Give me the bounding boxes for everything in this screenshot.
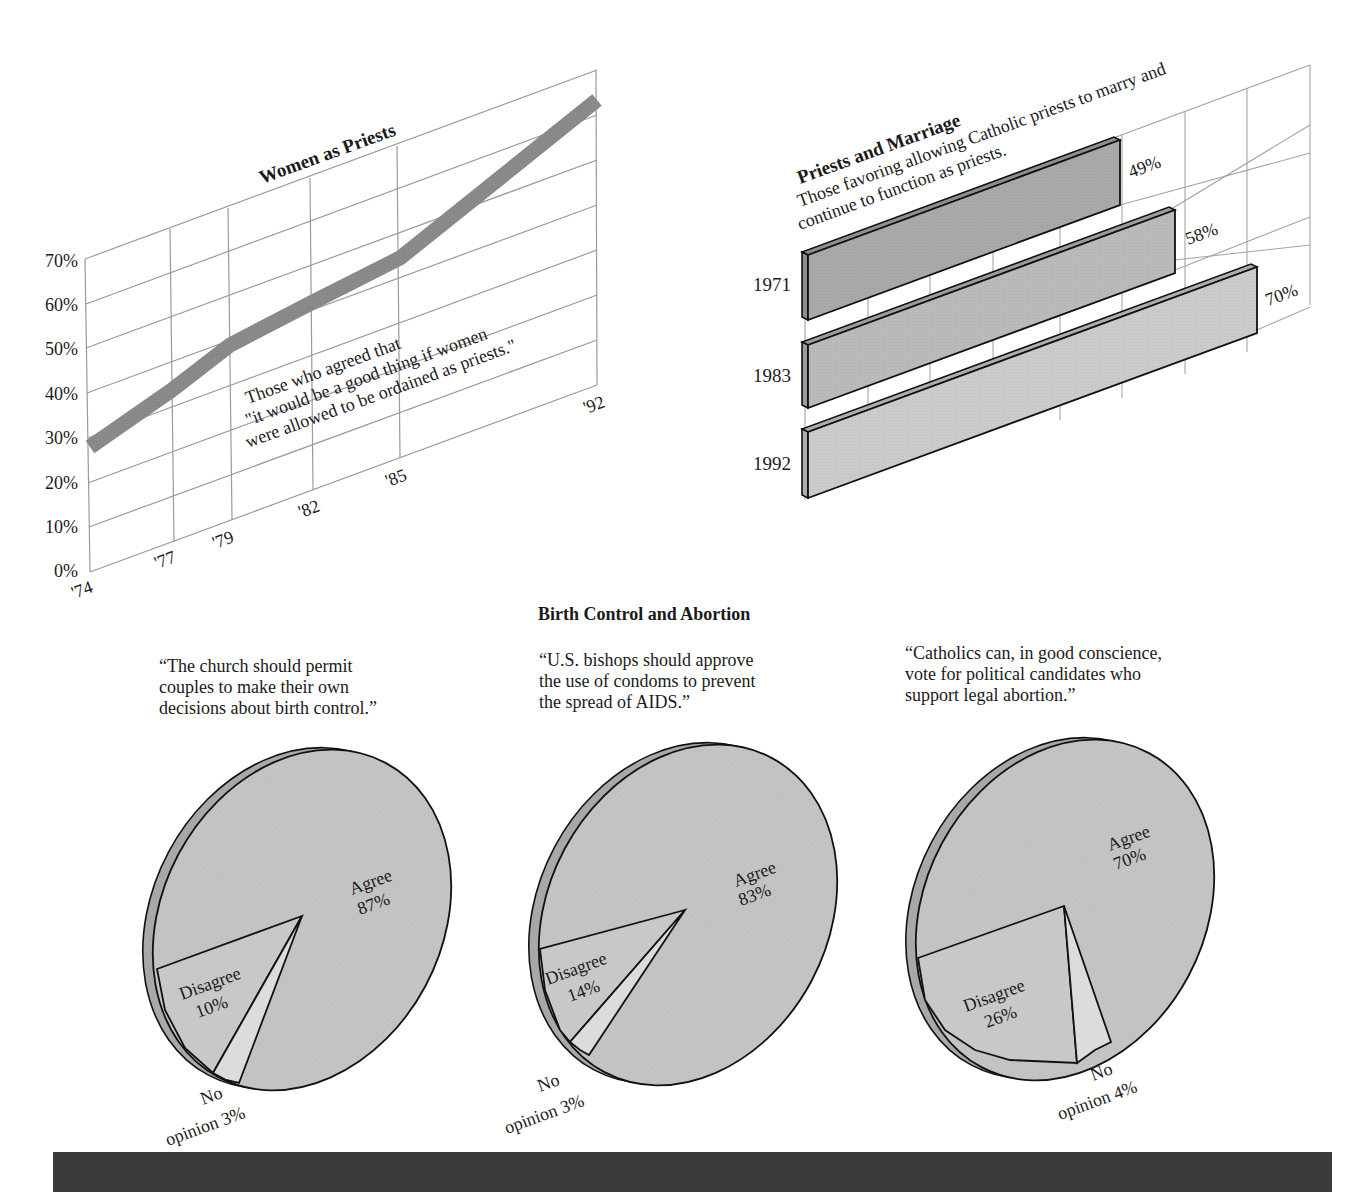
x-tick: '79: [210, 527, 237, 553]
x-tick: '92: [581, 392, 608, 418]
line-chart-title: Women as Priests: [256, 119, 398, 188]
pie-abortion: Disagree 26% Agree 70% No opinion 4%: [848, 685, 1272, 1133]
bar-chart-categories: 1971 1983 1992: [753, 274, 791, 474]
y-tick: 70%: [45, 251, 78, 271]
x-tick: '77: [152, 547, 179, 573]
line-chart-y-axis: 0% 10% 20% 30% 40% 50% 60% 70%: [45, 251, 78, 581]
line-chart-x-axis: '74 '77 '79 '82 '85 '92: [69, 392, 608, 603]
pie-caption-2: “U.S. bishops should approve the use of …: [539, 650, 755, 713]
value-label: 58%: [1183, 219, 1221, 249]
y-tick: 20%: [45, 473, 78, 493]
no-opinion-pct: opinion 3%: [502, 1090, 587, 1137]
pie-caption-1: “The church should permit couples to mak…: [159, 656, 377, 719]
no-opinion-label: No: [198, 1082, 226, 1108]
line-chart-annotation: Those who agreed that "it would be a goo…: [240, 237, 574, 452]
pies-section-title: Birth Control and Abortion: [538, 604, 750, 625]
women-as-priests-chart: 0% 10% 20% 30% 40% 50% 60% 70% '74 '77 '…: [45, 70, 607, 603]
caption-line: “U.S. bishops should approve: [539, 650, 755, 671]
caption-line: “The church should permit: [159, 656, 377, 677]
value-label: 49%: [1126, 152, 1164, 182]
caption-line: “Catholics can, in good conscience,: [905, 643, 1162, 664]
category-label: 1983: [753, 365, 791, 386]
y-tick: 10%: [45, 517, 78, 537]
footer-bar: [53, 1152, 1332, 1192]
y-tick: 30%: [45, 428, 78, 448]
caption-line: the use of condoms to prevent: [539, 671, 755, 692]
x-tick: '85: [383, 465, 410, 491]
no-opinion-label: No: [535, 1069, 563, 1095]
caption-line: support legal abortion.”: [905, 685, 1162, 706]
value-label: 70%: [1263, 280, 1301, 310]
y-tick: 50%: [45, 339, 78, 359]
priests-and-marriage-chart: 1971 1983 1992 49% 58% 70% Priests and M…: [753, 58, 1310, 500]
pie-birth-control: Disagree 10% Agree 87% No opinion 3%: [85, 695, 509, 1150]
caption-line: the spread of AIDS.”: [539, 692, 755, 713]
category-label: 1992: [753, 453, 791, 474]
y-tick: 0%: [54, 561, 78, 581]
pie-condoms: Disagree 14% Agree 83% No opinion 3%: [471, 690, 895, 1138]
y-tick: 40%: [45, 384, 78, 404]
caption-line: vote for political candidates who: [905, 664, 1162, 685]
caption-line: couples to make their own: [159, 677, 377, 698]
y-tick: 60%: [45, 295, 78, 315]
pie-caption-3: “Catholics can, in good conscience, vote…: [905, 643, 1162, 706]
category-label: 1971: [753, 274, 791, 295]
no-opinion-pct: opinion 3%: [163, 1102, 248, 1149]
caption-line: decisions about birth control.”: [159, 698, 377, 719]
x-tick: '82: [296, 496, 323, 522]
